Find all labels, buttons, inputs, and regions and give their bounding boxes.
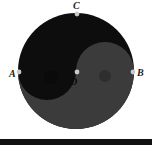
point-label-c: C <box>73 1 80 11</box>
point-label-b: B <box>137 68 144 78</box>
bottom-horizontal-rule <box>0 139 152 145</box>
yin-eye-dot <box>44 70 58 84</box>
yang-eye-dot <box>99 70 111 82</box>
taijitu-graphic <box>0 0 152 148</box>
point-marker-d <box>75 70 80 75</box>
point-marker-b <box>131 70 136 75</box>
point-marker-a <box>17 70 22 75</box>
point-label-a: A <box>9 69 16 79</box>
point-marker-c <box>75 12 80 17</box>
point-label-d: D <box>70 77 77 87</box>
figure-root: A B C D <box>0 0 152 148</box>
